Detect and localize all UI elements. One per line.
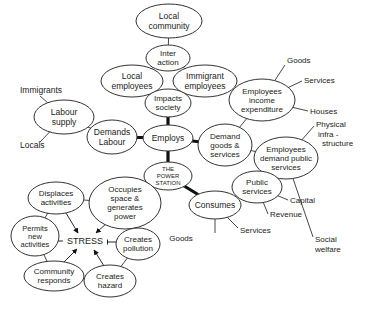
node-consumes: Consumes (189, 191, 241, 219)
node-label: space & (111, 194, 141, 203)
node-displaces: Displacesactivities (28, 182, 84, 214)
node-label: income (249, 96, 275, 105)
node-label: Labour (99, 137, 126, 147)
node-label: Demands (94, 127, 130, 137)
label-text: Revenue (270, 210, 303, 219)
node-label: services (210, 150, 239, 159)
label-goods-bottom: Goods (169, 234, 193, 243)
node-creates-hazard: Createshazard (84, 265, 136, 297)
node-demands-labour: DemandsLabour (87, 120, 137, 154)
node-label: demand public (260, 154, 312, 163)
node-label: Occupies (108, 185, 141, 194)
node-label: generates (107, 203, 143, 212)
node-label: expenditure (241, 105, 283, 114)
node-permits: Permitsnewactivities (11, 216, 59, 256)
node-label: hazard (98, 281, 122, 290)
node-label: activities (21, 240, 50, 249)
node-label: Employees (242, 87, 282, 96)
node-label: employees (111, 81, 152, 91)
label-text: Locals (20, 140, 45, 150)
node-label: POWER (157, 173, 180, 179)
label-revenue: Revenue (270, 210, 303, 219)
node-label: services (242, 187, 271, 196)
node-label: services (271, 163, 300, 172)
node-label: employees (184, 81, 225, 91)
node-employees-income: Employeesincomeexpenditure (229, 79, 295, 121)
node-community-responds: Communityresponds (24, 261, 84, 291)
label-locals: Locals (20, 140, 45, 150)
node-label: Employs (152, 133, 185, 143)
node-label: goods & (210, 141, 240, 150)
label-services-bottom: Services (240, 226, 271, 235)
label-stress: STRESS (63, 235, 107, 247)
node-public-services: Publicservices (232, 171, 282, 203)
node-label: supply (52, 117, 77, 127)
power-station-impact-diagram: LocalcommunityInteractionLocalemployeesI… (0, 0, 369, 309)
arrow-creates_hazard-to-stress (94, 250, 104, 266)
node-label: Employees (266, 145, 306, 154)
arrow-community_responds-to-stress (64, 249, 77, 262)
nodes: LocalcommunityInteractionLocalemployeesI… (11, 4, 318, 297)
node-label: society (156, 103, 181, 112)
node-label: STATION (155, 180, 180, 186)
node-label: Community (34, 267, 74, 276)
label-text: Services (240, 226, 271, 235)
node-impacts-society: Impactssociety (145, 89, 191, 117)
node-employs: Employs (143, 125, 193, 151)
node-occupies: Occupiesspace &generatespower (89, 177, 161, 229)
node-demand-goods: Demandgoods &services (198, 124, 252, 166)
node-label: power (114, 212, 136, 221)
node-label: action (157, 58, 178, 67)
label-immigrants: Immigrants (20, 85, 62, 95)
label-social-welfare: Socialwelfare (314, 235, 341, 254)
node-label: responds (38, 276, 71, 285)
node-label: pollution (123, 244, 153, 253)
node-label: activities (41, 198, 72, 207)
node-local-community: Localcommunity (136, 4, 202, 38)
node-label: Demand (210, 132, 240, 141)
node-label: Local (159, 11, 179, 21)
label-text: welfare (314, 245, 341, 254)
node-label: Labour (51, 107, 78, 117)
label-text: Immigrants (20, 85, 62, 95)
node-label: Displaces (39, 189, 74, 198)
node-interaction: Interaction (146, 45, 190, 71)
label-text: infra - (318, 130, 339, 139)
label-goods-top: Goods (287, 56, 311, 65)
label-text: structure (322, 139, 354, 148)
label-text: Goods (169, 234, 193, 243)
label-capital: Capital (290, 196, 315, 205)
node-label: Immigrant (186, 71, 224, 81)
node-label: Public (246, 178, 268, 187)
label-text: Goods (287, 56, 311, 65)
label-text: Capital (290, 196, 315, 205)
node-creates-pollution: Createspollution (116, 228, 160, 260)
node-label: Local (122, 71, 142, 81)
node-label: Inter (160, 49, 176, 58)
node-label: THE (162, 166, 174, 172)
label-services-top: Services (304, 76, 335, 85)
node-labour-supply: Laboursupply (34, 100, 94, 134)
label-text: Physical (316, 120, 346, 129)
label-text: Social (315, 235, 337, 244)
node-label: Creates (124, 235, 152, 244)
node-label: community (148, 21, 190, 31)
node-label: Creates (96, 272, 124, 281)
label-text: Services (304, 76, 335, 85)
label-physical-infra: Physicalinfra -structure (316, 120, 354, 148)
label-text: STRESS (67, 236, 103, 246)
arrow-displaces-to-stress (66, 213, 78, 233)
node-label: Consumes (195, 200, 236, 210)
label-houses: Houses (310, 107, 337, 116)
label-text: Houses (310, 107, 337, 116)
node-label: Impacts (154, 94, 182, 103)
